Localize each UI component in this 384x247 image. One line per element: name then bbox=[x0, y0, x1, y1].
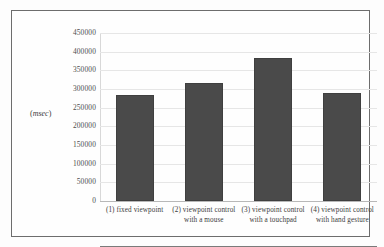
y-axis-tick-label: 400000 bbox=[40, 48, 96, 55]
y-axis-tick-labels: 4500004000003500003000002500002000001500… bbox=[38, 33, 96, 201]
y-axis-tick-label: 200000 bbox=[40, 123, 96, 130]
bar bbox=[116, 95, 154, 201]
y-axis-tick-label: 300000 bbox=[40, 85, 96, 92]
x-axis-category-label: (2) viewpoint control with a mouse bbox=[169, 202, 238, 246]
bar bbox=[185, 83, 223, 201]
y-axis-tick-label: 450000 bbox=[40, 29, 96, 36]
y-axis-tick-label: 150000 bbox=[40, 141, 96, 148]
bar bbox=[323, 93, 361, 201]
chart-screenshot: (msec) 450000400000350000300000250000200… bbox=[0, 0, 384, 247]
gridline bbox=[100, 33, 377, 34]
gridline bbox=[100, 70, 377, 71]
y-axis-tick-label: 250000 bbox=[40, 104, 96, 111]
x-axis-category-label: (3) viewpoint control with a touchpad bbox=[239, 202, 308, 246]
x-axis-category-label: (4) viewpoint control with hand gesture bbox=[308, 202, 377, 246]
y-axis-tick-label: 100000 bbox=[40, 160, 96, 167]
y-axis-tick-label: 0 bbox=[40, 197, 96, 204]
bar bbox=[254, 58, 292, 201]
figure-frame: (msec) 450000400000350000300000250000200… bbox=[11, 10, 370, 237]
gridline bbox=[100, 89, 377, 90]
gridline bbox=[100, 52, 377, 53]
x-axis-category-labels: (1) fixed viewpoint(2) viewpoint control… bbox=[100, 202, 377, 247]
x-axis-category-label: (1) fixed viewpoint bbox=[100, 202, 169, 246]
y-axis-tick-label: 350000 bbox=[40, 67, 96, 74]
plot-area bbox=[100, 33, 377, 201]
y-axis-tick-label: 50000 bbox=[40, 179, 96, 186]
